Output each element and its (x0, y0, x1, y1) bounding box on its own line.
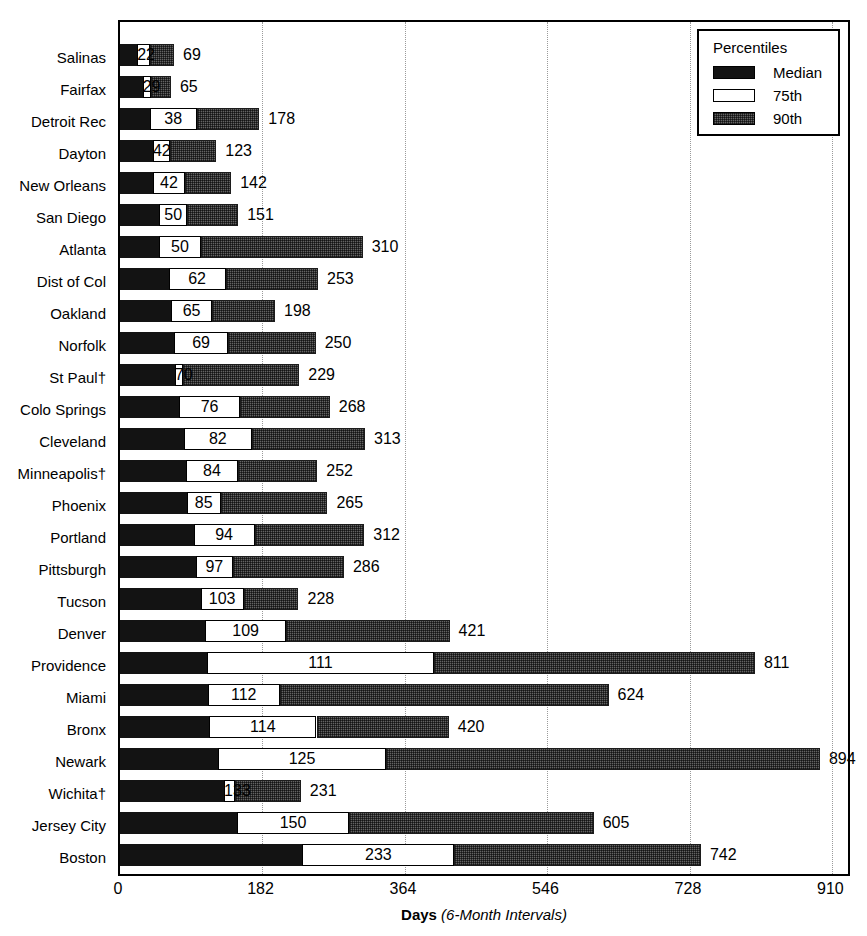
bar-segment-median (120, 108, 150, 130)
category-label-minneapolis: Minneapolis† (0, 463, 106, 485)
bar-segment-p90 (317, 716, 449, 738)
median-value-label: 62 (169, 268, 226, 290)
category-label-pittsburgh: Pittsburgh (0, 559, 106, 581)
category-label-portland: Portland (0, 527, 106, 549)
median-value-label: 150 (237, 812, 348, 834)
median-value-label: 70 (175, 364, 183, 386)
median-value-label: 38 (150, 108, 197, 130)
p90-value-label: 229 (308, 364, 335, 386)
p90-value-label: 231 (310, 780, 337, 802)
category-label-providence: Providence (0, 655, 106, 677)
median-value-label: 112 (208, 684, 280, 706)
p90-value-label: 421 (459, 620, 486, 642)
x-axis-title-italic: (6-Month Intervals) (441, 906, 567, 923)
bar-row: 233742 (120, 844, 852, 866)
p90-value-label: 250 (325, 332, 352, 354)
p90-value-label: 69 (183, 44, 201, 66)
p90-value-label: 420 (458, 716, 485, 738)
bar-segment-median (120, 716, 209, 738)
p90-value-label: 310 (372, 236, 399, 258)
bar-segment-median (120, 812, 237, 834)
bar-row: 150605 (120, 812, 852, 834)
bar-segment-median (120, 76, 143, 98)
median-value-label: 69 (174, 332, 228, 354)
bar-row: 82313 (120, 428, 852, 450)
plot-area: 2269296538178421234214250151503106225365… (118, 20, 850, 876)
category-label-boston: Boston (0, 847, 106, 869)
bar-row: 50151 (120, 204, 852, 226)
p90-value-label: 605 (603, 812, 630, 834)
bar-segment-p90 (221, 492, 327, 514)
category-label-st-paul: St Paul† (0, 367, 106, 389)
bar-segment-median (120, 300, 171, 322)
bar-segment-median (120, 684, 208, 706)
category-label-oakland: Oakland (0, 303, 106, 325)
median-value-label: 50 (159, 204, 187, 226)
x-axis-title-bold: Days (401, 906, 437, 923)
median-value-label: 114 (209, 716, 316, 738)
p90-value-label: 894 (829, 748, 856, 770)
bar-segment-p90 (228, 332, 316, 354)
category-label-atlanta: Atlanta (0, 239, 106, 261)
x-tick-label-546: 546 (532, 880, 559, 898)
bar-row: 76268 (120, 396, 852, 418)
legend-label-median: Median (773, 64, 822, 81)
median-value-label: 94 (194, 524, 255, 546)
bar-segment-p90 (286, 620, 450, 642)
p90-value-label: 268 (339, 396, 366, 418)
bar-row: 94312 (120, 524, 852, 546)
bar-segment-p90 (252, 428, 366, 450)
bar-segment-p90 (255, 524, 365, 546)
legend-swatch-median (713, 66, 755, 79)
bar-row: 109421 (120, 620, 852, 642)
bar-segment-median (120, 652, 207, 674)
bar-row: 65198 (120, 300, 852, 322)
category-label-new-orleans: New Orleans (0, 175, 106, 197)
bar-row: 70229 (120, 364, 852, 386)
p90-value-label: 253 (327, 268, 354, 290)
bar-segment-p90 (185, 172, 231, 194)
bar-segment-median (120, 428, 184, 450)
bar-segment-median (120, 748, 218, 770)
median-value-label: 42 (153, 140, 170, 162)
p90-value-label: 811 (764, 652, 790, 674)
legend-swatch-p75 (713, 89, 755, 102)
p90-value-label: 624 (618, 684, 645, 706)
category-label-jersey-city: Jersey City (0, 815, 106, 837)
bar-row: 42123 (120, 140, 852, 162)
bar-segment-median (120, 492, 187, 514)
median-value-label: 84 (186, 460, 238, 482)
category-label-san-diego: San Diego (0, 207, 106, 229)
category-label-cleveland: Cleveland (0, 431, 106, 453)
category-label-tucson: Tucson (0, 591, 106, 613)
bar-segment-p90 (197, 108, 260, 130)
median-value-label: 82 (184, 428, 251, 450)
bar-segment-p90 (349, 812, 594, 834)
p90-value-label: 198 (284, 300, 311, 322)
bar-segment-median (120, 44, 137, 66)
category-label-fairfax: Fairfax (0, 79, 106, 101)
category-label-detroit-rec: Detroit Rec (0, 111, 106, 133)
bar-segment-median (120, 556, 196, 578)
median-value-label: 22 (137, 44, 150, 66)
median-value-label: 125 (218, 748, 386, 770)
bar-row: 42142 (120, 172, 852, 194)
legend-item-p75: 75th (713, 85, 838, 106)
bar-segment-median (120, 332, 174, 354)
median-value-label: 111 (207, 652, 434, 674)
category-label-colo-springs: Colo Springs (0, 399, 106, 421)
category-label-bronx: Bronx (0, 719, 106, 741)
bar-segment-p90 (238, 460, 317, 482)
category-label-norfolk: Norfolk (0, 335, 106, 357)
x-axis: 0182364546728910 (118, 876, 850, 906)
p90-value-label: 312 (373, 524, 400, 546)
bar-segment-median (120, 268, 169, 290)
bar-segment-p90 (434, 652, 755, 674)
bar-row: 133231 (120, 780, 852, 802)
median-value-label: 50 (159, 236, 200, 258)
bar-segment-median (120, 844, 302, 866)
bar-segment-median (120, 172, 153, 194)
p90-value-label: 65 (180, 76, 198, 98)
bar-segment-median (120, 204, 159, 226)
legend-label-p75: 75th (773, 87, 802, 104)
